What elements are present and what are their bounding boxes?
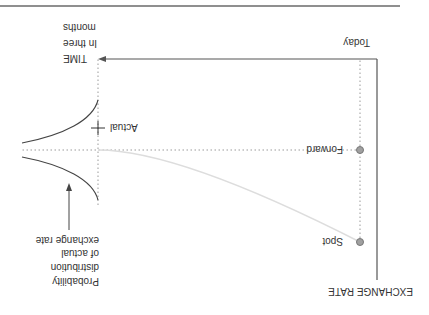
forward-point: [357, 147, 364, 154]
x-axis-end-label-line-3: months: [63, 22, 96, 33]
distribution-pointer-arrow-icon: [66, 183, 72, 191]
distribution-label-line-1: Probability: [52, 276, 99, 287]
distribution-label-line-2: distribution: [51, 262, 99, 273]
x-axis-end-label-line-2: In three: [63, 38, 97, 49]
actual-cross-icon: [91, 121, 105, 135]
distribution-upper-curve: [22, 157, 98, 200]
spot-label: Spot: [322, 236, 343, 247]
x-axis-end-label-line-1: TIME: [63, 53, 87, 64]
distribution-label-line-4: exchange rate: [35, 235, 99, 246]
x-axis-start-label: Today: [343, 37, 370, 48]
spot-point: [357, 239, 364, 246]
actual-label: Actual: [110, 122, 138, 133]
distribution-label-line-3: of actual: [61, 248, 99, 259]
exchange-rate-diagram: EXCHANGE RATE Today TIME In three months…: [0, 0, 429, 315]
spot-to-forward-path: [98, 150, 360, 242]
distribution-lower-curve: [22, 100, 98, 143]
diagram-canvas: EXCHANGE RATE Today TIME In three months…: [0, 0, 429, 315]
y-axis-label: EXCHANGE RATE: [328, 286, 413, 297]
x-axis-arrow-icon: [98, 56, 106, 62]
forward-label: Forward: [306, 144, 343, 155]
